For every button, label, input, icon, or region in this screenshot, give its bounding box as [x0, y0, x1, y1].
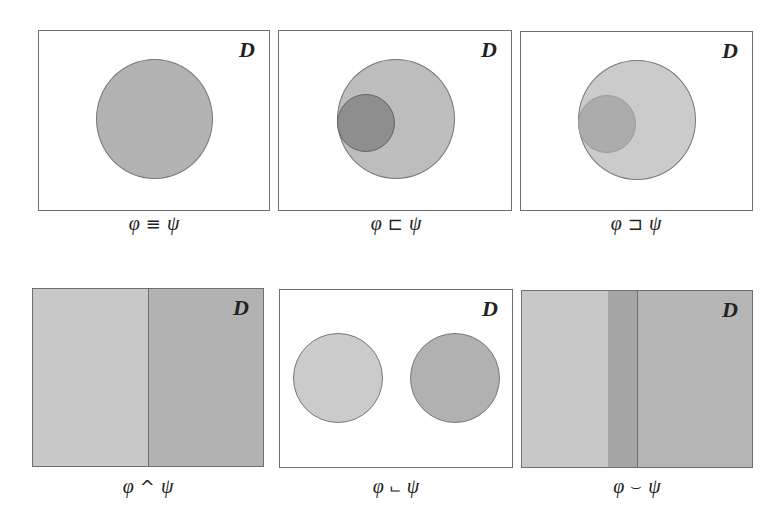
circle-phi-psi: [96, 59, 213, 179]
caption-psi: ψ: [648, 475, 660, 497]
subsumed-symbol: ⊏: [388, 213, 403, 234]
caption-psi: ψ: [649, 212, 661, 234]
caption-phi: φ: [611, 212, 622, 234]
caption-phi: φ: [129, 212, 140, 234]
caption-disjoint: φ⨽ψ: [280, 475, 512, 498]
equivalence-symbol: ≡: [146, 213, 161, 234]
caption-phi: φ: [123, 475, 134, 497]
caption-subsumed: φ⊏ψ: [280, 212, 512, 235]
domain-label: D: [239, 37, 255, 63]
caption-psi: ψ: [409, 212, 421, 234]
circle-psi-small: [578, 95, 636, 153]
caption-phi: φ: [613, 475, 624, 497]
complement-symbol: ^: [140, 476, 155, 497]
panel-complementary: D: [32, 288, 264, 467]
domain-label: D: [481, 37, 497, 63]
circle-phi: [293, 333, 383, 423]
caption-psi: ψ: [167, 212, 179, 234]
panel-subsumes: D: [520, 31, 753, 211]
panel-overlapping-cover: D: [521, 290, 753, 468]
panel-disjoint: D: [279, 289, 513, 468]
overlap-symbol: ⌣: [630, 476, 642, 497]
subsumes-symbol: ⊐: [628, 213, 643, 234]
domain-label: D: [233, 295, 249, 321]
region-overlap: [608, 291, 637, 467]
caption-equivalent: φ≡ψ: [38, 212, 270, 235]
disjoint-symbol: ⨽: [390, 476, 401, 497]
region-phi-only: [522, 291, 608, 467]
circle-psi: [410, 333, 500, 423]
caption-phi: φ: [371, 212, 382, 234]
caption-psi: ψ: [161, 475, 173, 497]
domain-label: D: [482, 296, 498, 322]
domain-label: D: [722, 38, 738, 64]
panel-subsumed: D: [278, 30, 512, 211]
domain-label: D: [722, 297, 738, 323]
region-phi: [33, 289, 148, 466]
caption-complementary: φ^ψ: [32, 475, 264, 498]
caption-phi: φ: [373, 475, 384, 497]
panel-equivalent: D: [38, 30, 270, 211]
caption-psi: ψ: [407, 475, 419, 497]
caption-subsumes: φ⊐ψ: [520, 212, 752, 235]
caption-overlapping-cover: φ⌣ψ: [521, 475, 753, 498]
circle-phi-small: [337, 94, 395, 152]
